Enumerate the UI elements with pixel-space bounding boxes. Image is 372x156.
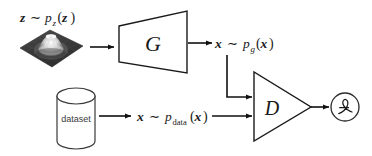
pdata-label-var: x xyxy=(136,109,144,124)
pg-label-tilde: ∼ xyxy=(227,36,238,51)
noise-label-tilde: ∼ xyxy=(30,10,41,25)
pg-label-close-paren: ) xyxy=(269,36,274,52)
gan-architecture-diagram: z ∼ p z ( z ) G x ∼ p g ( x ) xyxy=(0,0,372,156)
pdata-label-close-paren: ) xyxy=(203,109,208,125)
pg-label-arg: x xyxy=(260,36,268,51)
pdata-label-subscript: data xyxy=(173,117,187,127)
pg-label-var: x xyxy=(214,36,222,51)
pdata-label-tilde: ∼ xyxy=(149,109,160,124)
noise-label-close-paren: ) xyxy=(71,10,76,26)
noise-label-subscript: z xyxy=(52,18,57,28)
pg-label-subscript: g xyxy=(251,44,256,54)
generator-block: G xyxy=(119,11,187,73)
arrow-pg-to-discriminator xyxy=(227,55,252,97)
dataset-cylinder: dataset xyxy=(57,88,95,149)
pdata-label-p: p xyxy=(164,109,172,124)
loss-label: ℒ xyxy=(345,112,346,113)
data-distribution-label: x ∼ p data ( x ) xyxy=(136,109,208,127)
loss-node: ℒ xyxy=(331,93,359,121)
generated-distribution-label: x ∼ p g ( x ) xyxy=(214,36,274,54)
noise-label-var: z xyxy=(19,10,26,25)
noise-surface-plot xyxy=(20,30,83,67)
discriminator-shape xyxy=(254,72,311,141)
generator-label: G xyxy=(145,31,161,56)
noise-label-arg: z xyxy=(61,10,68,25)
discriminator-block: D xyxy=(254,72,311,141)
discriminator-label: D xyxy=(264,97,280,119)
pdata-label-arg: x xyxy=(194,109,202,124)
surface-peak-top xyxy=(46,34,56,39)
noise-label-p: p xyxy=(44,10,52,25)
pg-label-p: p xyxy=(242,36,250,51)
surface-peak-shadow xyxy=(36,48,66,58)
noise-distribution-label: z ∼ p z ( z ) xyxy=(19,10,76,28)
dataset-label: dataset xyxy=(61,114,91,124)
loss-symbol-icon xyxy=(339,99,352,113)
diagram-canvas: z ∼ p z ( z ) G x ∼ p g ( x ) xyxy=(0,0,372,156)
dataset-top-ellipse xyxy=(57,88,95,104)
